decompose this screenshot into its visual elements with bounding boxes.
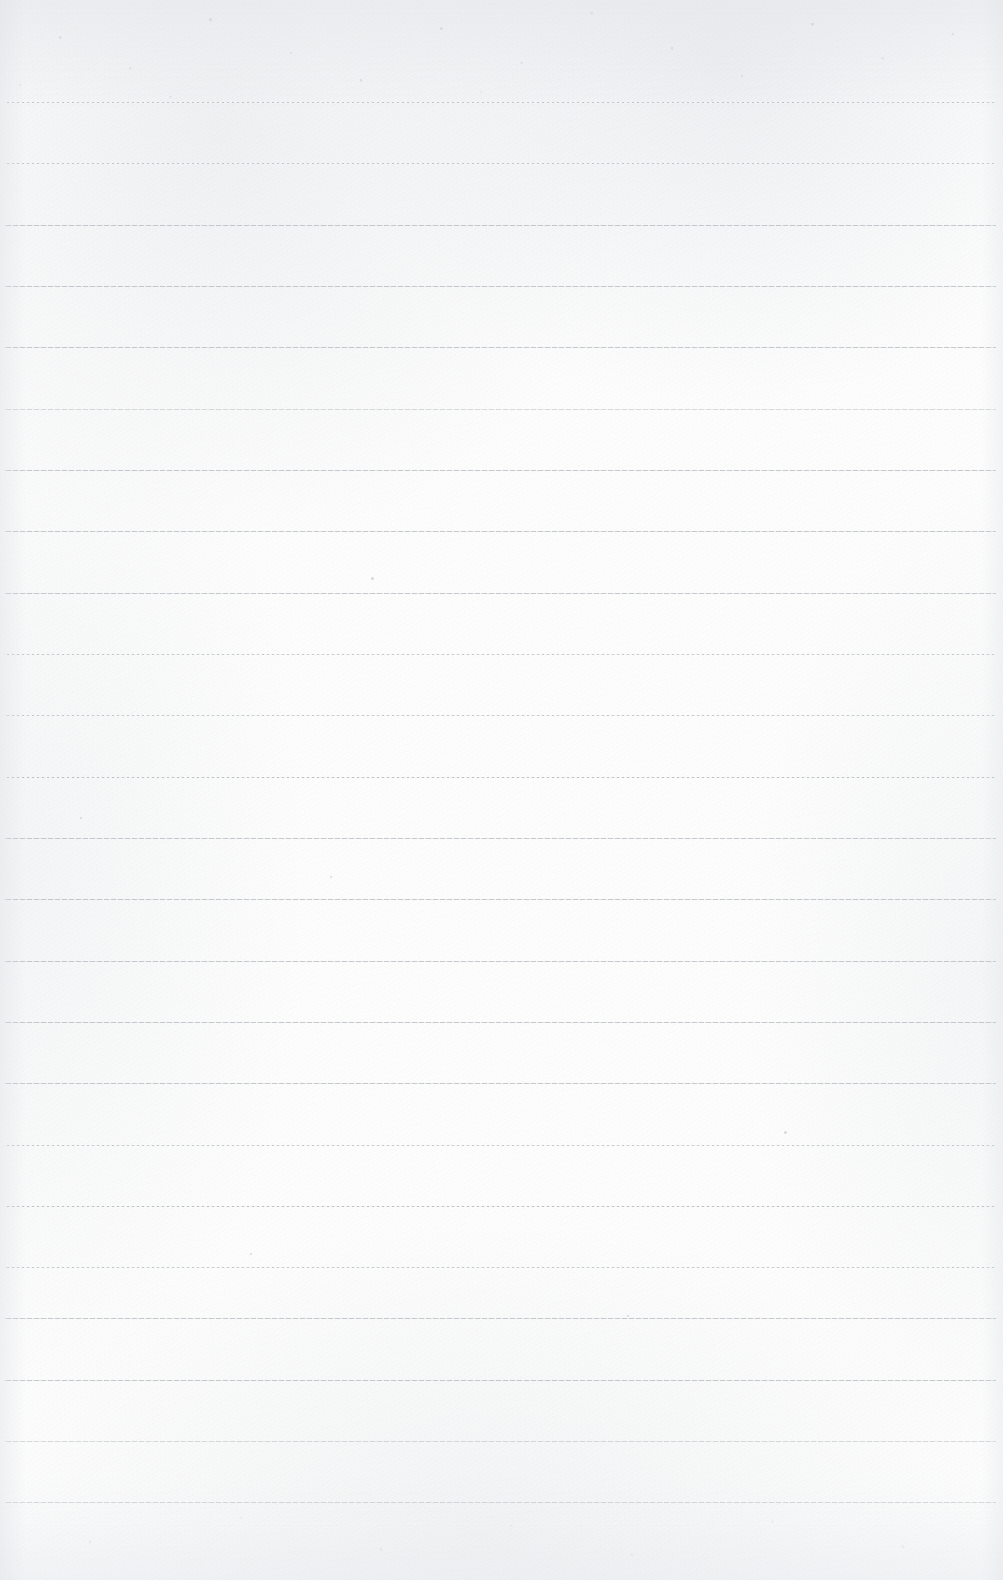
paper-speck-5 xyxy=(250,1253,252,1255)
paper-speck-1 xyxy=(784,1131,787,1134)
paper-speck-4 xyxy=(627,1315,629,1317)
paper-specks-group xyxy=(0,0,1003,1580)
paper-speck-3 xyxy=(330,876,332,878)
paper-speck-6 xyxy=(80,817,82,819)
lined-paper-page xyxy=(0,0,1003,1580)
paper-speck-2 xyxy=(371,577,374,580)
